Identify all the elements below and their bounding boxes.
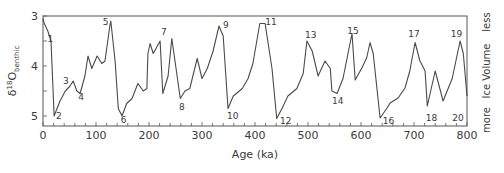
chart-canvas: 0100200300400500600700800345 12345678910… [0, 0, 504, 173]
right-axis-ice-volume-label: Ice Volume [481, 44, 492, 99]
stage-label: 20 [452, 113, 464, 123]
plot-border [43, 16, 467, 126]
stage-label: 4 [78, 92, 84, 102]
stage-label: 10 [227, 111, 239, 121]
y-tick-label: 3 [31, 10, 38, 23]
y-label-main: O [6, 72, 19, 81]
x-tick-label: 200 [139, 129, 160, 142]
y-label-subscript: benthic [13, 46, 21, 72]
stage-label: 18 [426, 113, 438, 123]
stage-label: 8 [179, 102, 185, 112]
benthic-oxygen-isotope-chart: 0100200300400500600700800345 12345678910… [0, 0, 504, 173]
x-tick-label: 800 [457, 129, 478, 142]
y-tick-label: 4 [31, 60, 38, 73]
stage-label: 19 [451, 29, 463, 39]
x-tick-label: 0 [40, 129, 47, 142]
stage-label: 1 [48, 34, 54, 44]
stage-label: 15 [347, 26, 358, 36]
y-label-superscript: 18 [6, 81, 14, 90]
stage-label: 12 [280, 116, 291, 126]
stage-label: 6 [121, 115, 127, 125]
right-axis-more-label: more [481, 107, 492, 133]
x-tick-label: 700 [404, 129, 425, 142]
x-axis-label: Age (ka) [232, 148, 278, 161]
x-tick-label: 500 [298, 129, 319, 142]
stage-label: 3 [63, 76, 69, 86]
stage-label: 14 [332, 96, 344, 106]
x-tick-label: 300 [192, 129, 213, 142]
stage-label: 7 [161, 27, 167, 37]
stage-annotations: 1234567891011121314151617181920 [48, 17, 464, 126]
stage-label: 9 [223, 20, 229, 30]
x-tick-label: 600 [351, 129, 372, 142]
data-series-line [43, 19, 467, 119]
stage-label: 13 [305, 30, 316, 40]
stage-label: 16 [383, 116, 395, 126]
x-tick-label: 100 [86, 129, 107, 142]
plot-frame [43, 16, 467, 126]
stage-label: 5 [103, 17, 109, 27]
stage-label: 2 [56, 111, 62, 121]
y-axis-label: δ18Obenthic [6, 46, 21, 97]
stage-label: 17 [408, 29, 419, 39]
y-tick-label: 5 [31, 110, 38, 123]
stage-label: 11 [265, 17, 276, 27]
x-tick-label: 400 [245, 129, 266, 142]
right-axis-less-label: less [481, 12, 492, 31]
